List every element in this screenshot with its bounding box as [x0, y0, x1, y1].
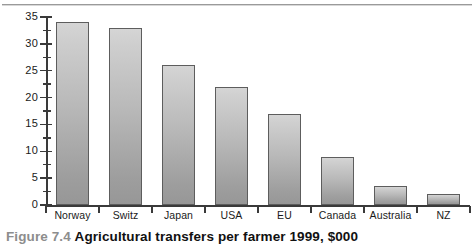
figure-title: Agricultural transfers per farmer 1999, …	[75, 229, 359, 244]
bar-japan	[162, 65, 196, 205]
x-category-label-nz: NZ	[417, 209, 470, 221]
bar-usa	[215, 87, 249, 205]
x-category-label-norway: Norway	[46, 209, 99, 221]
figure-container: 05101520253035 NorwaySwitzJapanUSAEUCana…	[0, 0, 474, 252]
x-category-label-usa: USA	[205, 209, 258, 221]
bar-nz	[427, 194, 461, 205]
x-category-label-switz: Switz	[99, 209, 152, 221]
x-category-label-australia: Australia	[364, 209, 417, 221]
figure-caption: Figure 7.4 Agricultural transfers per fa…	[6, 228, 472, 245]
x-category-label-canada: Canada	[311, 209, 364, 221]
x-category-label-japan: Japan	[152, 209, 205, 221]
x-category-label-eu: EU	[258, 209, 311, 221]
bar-norway	[56, 22, 90, 205]
figure-number: Figure 7.4	[6, 229, 71, 244]
bar-switz	[109, 28, 143, 205]
bar-canada	[321, 157, 355, 205]
bar-series	[0, 0, 474, 205]
bar-eu	[268, 114, 302, 205]
bar-australia	[374, 186, 408, 205]
bar-chart-plot-area: 05101520253035 NorwaySwitzJapanUSAEUCana…	[0, 0, 474, 215]
